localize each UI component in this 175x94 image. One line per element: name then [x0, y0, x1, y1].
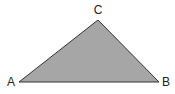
vertex-label-a: A: [7, 75, 15, 89]
vertex-label-c: C: [94, 3, 103, 17]
vertex-label-b: B: [162, 75, 170, 89]
triangle-diagram: A B C: [0, 0, 175, 94]
triangle-abc: [19, 20, 159, 82]
